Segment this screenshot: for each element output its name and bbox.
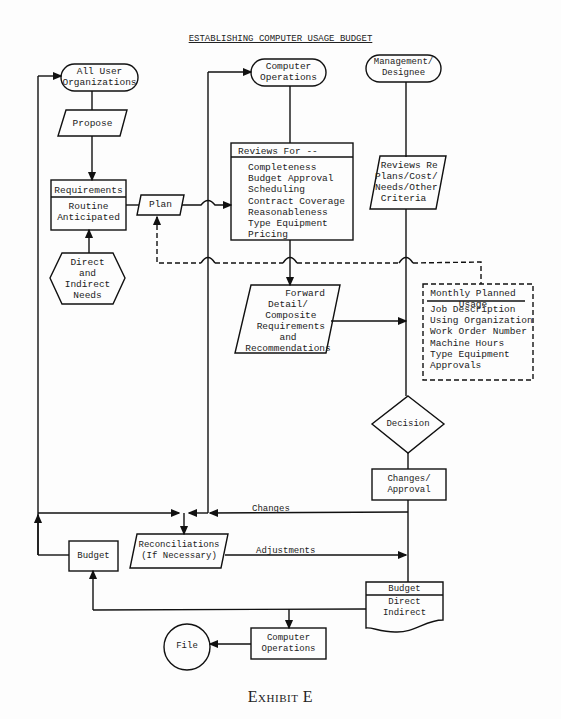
reviews-re-label: Reviews Re Plans/Cost/ Needs/Other Crite… — [375, 160, 438, 204]
needs-label: Direct and Indirect Needs — [50, 257, 125, 301]
reconciliations-label: Reconciliations (If Necessary) — [130, 540, 228, 562]
plan-label: Plan — [137, 199, 184, 210]
budget-doc-body: Direct Indirect — [366, 597, 443, 619]
budget-left-label: Budget — [69, 551, 118, 562]
reviews-for-list: Completeness Budget Approval Scheduling … — [248, 162, 345, 240]
decision-label: Decision — [372, 419, 444, 430]
computer-ops-bottom-label: Computer Operations — [251, 633, 326, 655]
exhibit-caption: Exhibit E — [0, 688, 561, 706]
propose-label: Propose — [58, 118, 127, 129]
flowchart-canvas: ESTABLISHING COMPUTER USAGE BUDGET — [0, 0, 561, 719]
requirements-header: Requirements — [51, 185, 126, 196]
management-label: Management/ Designee — [366, 57, 441, 79]
reviews-for-header: Reviews For -- — [238, 146, 318, 157]
monthly-list: Job Description Using Organization Work … — [430, 304, 533, 371]
all-user-orgs-label: All User Organizations — [61, 66, 138, 88]
file-label: File — [164, 641, 210, 652]
changes-approval-label: Changes/ Approval — [372, 474, 446, 496]
requirements-body: Routine Anticipated — [51, 201, 126, 223]
computer-ops-top-label: Computer Operations — [251, 61, 326, 83]
forward-label: Forward Detail/ Composite Requirements a… — [236, 288, 340, 354]
budget-doc-header: Budget — [366, 584, 443, 595]
edge-label-adjustments: Adjustments — [256, 546, 315, 557]
edge-label-changes: Changes — [252, 504, 290, 515]
